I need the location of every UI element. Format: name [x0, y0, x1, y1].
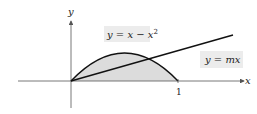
area-between-curves-diagram: y = x − x2 y = mx x y 1 — [0, 0, 257, 114]
line-label: y = mx — [204, 54, 241, 65]
y-axis-label: y — [67, 6, 74, 17]
x-axis-label: x — [245, 75, 251, 86]
x-tick-label: 1 — [176, 87, 182, 97]
parabola-label: y = x − x2 — [106, 28, 158, 40]
